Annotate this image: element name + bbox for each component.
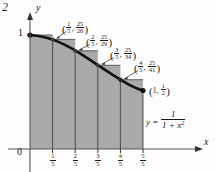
p3-y-num: 25	[124, 47, 132, 53]
tick-4-5-numerator: 4	[118, 153, 123, 160]
point-label-3: (35, 2534)	[110, 47, 136, 61]
p5-y-den: 2	[161, 89, 166, 96]
x-tick-label-5-5: 5 5	[135, 153, 151, 168]
p3-x-den: 5	[114, 53, 119, 60]
p2-x-den: 5	[90, 40, 95, 47]
x-tick-label-3-5: 3 5	[90, 153, 106, 168]
tick-2-5-denominator: 5	[73, 160, 78, 168]
tick-1-5-numerator: 1	[50, 153, 55, 160]
equation-fraction: 1 1 + x2	[161, 110, 185, 130]
equation-numerator: 1	[161, 110, 185, 119]
p1-y-den: 26	[76, 27, 84, 34]
tick-5-5-denominator: 5	[140, 160, 145, 168]
function-equation-label: y = 1 1 + x2	[146, 110, 186, 130]
tick-4-5-denominator: 5	[118, 160, 123, 168]
y-tick-label-1: 1	[18, 27, 23, 38]
y-axis-label: y	[36, 2, 40, 13]
equation-denominator-lead: 1 + x	[162, 120, 181, 130]
point-label-1: (15, 2526)	[62, 21, 88, 35]
figure-container: 2	[0, 0, 215, 172]
p3-y-den: 34	[124, 53, 132, 60]
point-label-4: (45, 2541)	[134, 60, 160, 74]
p4-y-den: 41	[148, 66, 156, 73]
tick-3-5-numerator: 3	[95, 153, 100, 160]
tick-1-5-denominator: 5	[50, 160, 55, 168]
x-tick-label-1-5: 1 5	[45, 153, 61, 168]
equation-denominator-exponent: 2	[181, 119, 184, 126]
tick-2-5-numerator: 2	[73, 153, 78, 160]
point-label-2: (25, 2529)	[86, 34, 112, 48]
riemann-sum-plot	[0, 0, 215, 172]
origin-label: 0	[17, 146, 22, 157]
p1-y-num: 25	[76, 21, 84, 27]
tick-5-5-numerator: 5	[140, 153, 145, 160]
equation-lhs: y	[146, 117, 150, 127]
point-label-5: (1, 12)	[149, 83, 170, 97]
p2-y-den: 29	[100, 40, 108, 47]
p2-y-num: 25	[100, 34, 108, 40]
p4-x-den: 5	[138, 66, 143, 73]
x-axis-label: x	[204, 136, 208, 147]
x-tick-label-2-5: 2 5	[68, 153, 84, 168]
x-tick-label-4-5: 4 5	[113, 153, 129, 168]
p4-y-num: 25	[148, 60, 156, 66]
equation-equals: =	[152, 117, 158, 127]
p1-x-den: 5	[66, 27, 71, 34]
tick-3-5-denominator: 5	[95, 160, 100, 168]
equation-denominator: 1 + x2	[161, 119, 185, 130]
